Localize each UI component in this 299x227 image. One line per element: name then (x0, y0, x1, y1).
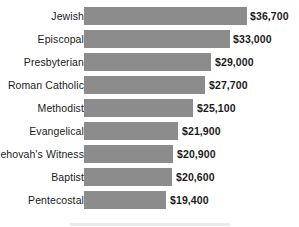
value-label: $20,900 (177, 145, 216, 163)
value-label: $29,000 (215, 53, 254, 71)
category-label: Methodist (0, 99, 84, 117)
bar (84, 168, 172, 186)
value-label: $19,400 (170, 191, 209, 209)
bottom-edge-artifact (70, 223, 230, 226)
chart-row: Evangelical $21,900 (0, 122, 299, 140)
bar-track (84, 30, 230, 48)
bar-track (84, 145, 173, 163)
chart-row: Pentecostal $19,400 (0, 191, 299, 209)
chart-row: Methodist $25,100 (0, 99, 299, 117)
bar-track (84, 99, 193, 117)
value-label: $25,100 (197, 99, 236, 117)
bar-track (84, 76, 205, 94)
bar-track (84, 122, 178, 140)
category-label: Evangelical (0, 122, 84, 140)
bar (84, 122, 178, 140)
category-label: Presbyterian (0, 53, 84, 71)
bar (84, 53, 211, 71)
chart-row: Jewish $36,700 (0, 7, 299, 25)
value-label: $36,700 (250, 7, 289, 25)
chart-row: Jehovah's Witness $20,900 (0, 145, 299, 163)
bar (84, 145, 173, 163)
value-label: $20,600 (176, 168, 215, 186)
category-label: Episcopal (0, 30, 84, 48)
value-label: $27,700 (209, 76, 248, 94)
bar (84, 7, 247, 25)
chart-row: Baptist $20,600 (0, 168, 299, 186)
category-label: Jehovah's Witness (0, 145, 84, 163)
bar (84, 191, 166, 209)
chart-row: Presbyterian $29,000 (0, 53, 299, 71)
bar (84, 30, 230, 48)
category-label: Roman Catholic (0, 76, 84, 94)
bar-track (84, 7, 247, 25)
category-label: Pentecostal (0, 191, 84, 209)
chart-row: Roman Catholic $27,700 (0, 76, 299, 94)
value-label: $21,900 (182, 122, 221, 140)
category-label: Baptist (0, 168, 84, 186)
bar (84, 76, 205, 94)
value-label: $33,000 (233, 30, 272, 48)
bar-track (84, 168, 172, 186)
category-label: Jewish (0, 7, 84, 25)
bar-chart: Jewish $36,700 Episcopal $33,000 Presbyt… (0, 0, 299, 227)
bar-track (84, 53, 211, 71)
bar-track (84, 191, 166, 209)
bar (84, 99, 193, 117)
chart-row: Episcopal $33,000 (0, 30, 299, 48)
